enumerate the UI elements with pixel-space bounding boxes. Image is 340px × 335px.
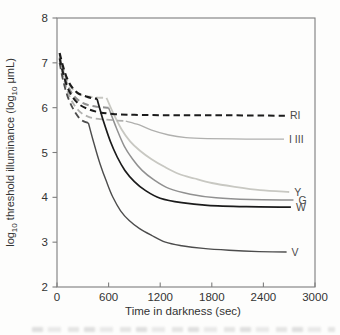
y-tick-label-4: 4 xyxy=(42,191,49,203)
x-tick-label-3000: 3000 xyxy=(302,291,328,303)
y-tick-label-8: 8 xyxy=(42,12,48,24)
y-tick-label-5: 5 xyxy=(42,147,48,159)
y-tick-label-2: 2 xyxy=(42,281,48,293)
curve-label-RI: RI xyxy=(290,109,301,121)
curve-labels: YI IIIGVRIW xyxy=(289,109,307,257)
x-tick-label-2400: 2400 xyxy=(251,291,277,303)
curve-Y-solid xyxy=(107,98,290,192)
x-tick-label-1200: 1200 xyxy=(147,291,173,303)
y-axis-ticks: 8765432 xyxy=(42,12,57,293)
dark-adaptation-chart: 8765432 06001200180024003000 YI IIIGVRIW… xyxy=(0,0,340,335)
y-axis-title: log10 threshold illuminance (log10 μmL) xyxy=(4,58,19,247)
figure-canvas: 8765432 06001200180024003000 YI IIIGVRIW… xyxy=(0,0,340,335)
y-tick-label-3: 3 xyxy=(42,236,48,248)
curves xyxy=(60,53,294,252)
x-tick-label-1800: 1800 xyxy=(199,291,225,303)
x-tick-label-600: 600 xyxy=(99,291,118,303)
axis-titles: Time in darkness (sec)log10 threshold il… xyxy=(4,58,241,316)
curve-label-I-III: I III xyxy=(289,133,304,145)
x-axis-title: Time in darkness (sec) xyxy=(125,305,241,317)
y-tick-label-7: 7 xyxy=(42,57,48,69)
curve-I-III-solid xyxy=(126,121,284,139)
truncated-caption-text xyxy=(32,327,335,332)
curve-label-V: V xyxy=(292,246,299,258)
x-axis-ticks: 06001200180024003000 xyxy=(54,283,328,304)
y-tick-label-6: 6 xyxy=(42,102,48,114)
curve-G-solid xyxy=(109,108,294,200)
curve-G-dashed xyxy=(60,58,109,108)
curve-V-solid xyxy=(88,123,286,252)
curve-label-W: W xyxy=(296,201,306,213)
curve-W-dashed xyxy=(60,53,97,99)
x-tick-label-0: 0 xyxy=(54,291,60,303)
